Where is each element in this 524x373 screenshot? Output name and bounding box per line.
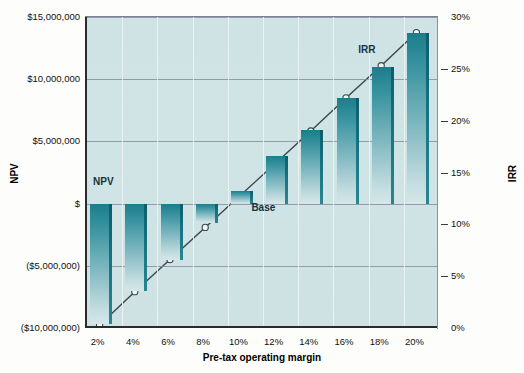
x-axis-title: Pre-tax operating margin	[0, 352, 524, 363]
npv-tick-label: ($5,000,000)	[26, 261, 80, 271]
irr-data-point	[202, 224, 208, 230]
x-tick-label: 20%	[394, 336, 434, 347]
bar-npv	[266, 156, 285, 203]
bar-npv-edge	[391, 67, 394, 204]
bar-npv	[161, 204, 180, 260]
x-tick-label: 10%	[218, 336, 258, 347]
plot-top-border	[85, 16, 438, 17]
npv-tick-label: ($10,000,000)	[21, 323, 80, 333]
gridline-vertical	[157, 17, 158, 326]
bar-npv-edge	[356, 98, 359, 204]
irr-tick-label: 5%	[451, 271, 465, 281]
gridline-vertical	[298, 17, 299, 326]
npv-axis-title: NPV	[9, 154, 20, 194]
gridline-vertical	[404, 17, 405, 326]
x-tick-label: 8%	[183, 336, 223, 347]
npv-irr-chart: $15,000,000$10,000,000$5,000,000$($5,000…	[0, 0, 524, 373]
irr-axis-title: IRR	[507, 154, 518, 194]
gridline-vertical	[333, 17, 334, 326]
bar-npv-edge	[320, 130, 323, 203]
gridline-horizontal	[87, 17, 437, 18]
gridline-vertical	[369, 17, 370, 326]
bar-npv	[301, 130, 320, 203]
bar-npv-edge	[180, 204, 183, 260]
irr-axis-ticks: 30%25%20%15%10%5%0%	[451, 0, 511, 373]
x-tick-label: 2%	[78, 336, 118, 347]
irr-tick-label: 20%	[451, 116, 470, 126]
irr-tick-label: 30%	[451, 12, 470, 22]
bar-npv	[372, 67, 391, 204]
irr-series-label: IRR	[358, 44, 375, 55]
bar-npv-edge	[144, 204, 147, 291]
irr-tick-mark	[441, 276, 448, 277]
bar-npv	[407, 33, 426, 203]
x-tick-label: 12%	[254, 336, 294, 347]
bar-npv	[231, 191, 250, 203]
x-tick-label: 18%	[359, 336, 399, 347]
irr-tick-mark	[441, 121, 448, 122]
gridline-vertical	[122, 17, 123, 326]
irr-tick-mark	[441, 173, 448, 174]
bar-npv	[90, 204, 109, 325]
irr-tick-label: 10%	[451, 219, 470, 229]
gridline-vertical	[193, 17, 194, 326]
base-case-label: Base	[251, 202, 275, 213]
plot-right-border	[437, 17, 438, 329]
x-tick-label: 4%	[113, 336, 153, 347]
bar-npv-edge	[109, 204, 112, 325]
bar-npv-edge	[285, 156, 288, 203]
bar-npv-edge	[215, 204, 218, 224]
bar-npv	[196, 204, 215, 224]
npv-tick-label: $10,000,000	[27, 74, 80, 84]
irr-tick-label: 25%	[451, 64, 470, 74]
irr-tick-mark	[441, 69, 448, 70]
npv-tick-label: $	[75, 199, 80, 209]
irr-tick-label: 15%	[451, 168, 470, 178]
x-tick-label: 16%	[324, 336, 364, 347]
plot-area	[85, 17, 437, 328]
gridline-vertical	[228, 17, 229, 326]
x-tick-label: 14%	[289, 336, 329, 347]
irr-tick-label: 0%	[451, 323, 465, 333]
npv-series-label: NPV	[93, 176, 114, 187]
irr-tick-mark	[441, 224, 448, 225]
bar-npv-edge	[426, 33, 429, 203]
bar-npv	[125, 204, 144, 291]
x-tick-label: 6%	[148, 336, 188, 347]
npv-tick-label: $15,000,000	[27, 12, 80, 22]
npv-tick-label: $5,000,000	[32, 136, 80, 146]
gridline-vertical	[263, 17, 264, 326]
bar-npv	[337, 98, 356, 204]
